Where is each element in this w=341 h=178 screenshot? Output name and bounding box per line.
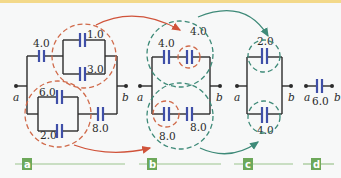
capacitor-reduction-diagram: a b 4.0 1.0 3.0 6.0 — [0, 0, 341, 178]
panel-b-terminal-b: b — [216, 91, 223, 103]
green-group-circle-bottom — [147, 83, 213, 149]
step-c-label: c — [245, 159, 251, 170]
green-arrow-top — [198, 11, 268, 36]
step-a-label: a — [24, 159, 31, 170]
terminal-b-dot — [124, 84, 128, 88]
panel-d-cap-equivalent: 6.0 — [312, 95, 329, 107]
panel-c-cap-bottom: 4.0 — [257, 124, 274, 136]
cap-label-1-0: 1.0 — [87, 28, 104, 40]
panel-c-terminal-a: a — [234, 91, 240, 103]
cap-label-2-0: 2.0 — [40, 129, 57, 141]
panel-c-circuit: a b 2.0 4.0 — [234, 35, 295, 136]
cap-label-8-0: 8.0 — [92, 122, 109, 134]
panel-c-terminal-b: b — [288, 91, 295, 103]
panel-b-cap-bot-left: 8.0 — [159, 130, 176, 142]
panel-b-cap-top-left: 4.0 — [158, 37, 175, 49]
panel-a-circuit: a b 4.0 1.0 3.0 6.0 — [13, 24, 129, 147]
panel-b-cap-bot-right: 8.0 — [190, 121, 207, 133]
cap-label-3-0: 3.0 — [87, 63, 104, 75]
red-arrow-bottom — [74, 145, 150, 152]
cap-label-6-0: 6.0 — [39, 86, 56, 98]
step-labels: a b c d — [15, 158, 334, 170]
panel-d-circuit: a b 6.0 — [304, 79, 341, 107]
panel-a-terminal-b: b — [122, 91, 129, 103]
step-d-label: d — [313, 159, 320, 170]
green-arrow-bottom — [200, 142, 258, 154]
panel-b-terminal-a: a — [137, 91, 143, 103]
panel-b-cap-top-right: 4.0 — [190, 25, 207, 37]
red-arrow-top — [96, 16, 180, 30]
panel-a-terminal-a: a — [13, 91, 19, 103]
terminal-a-dot — [14, 84, 18, 88]
step-b-label: b — [149, 159, 156, 170]
panel-d-terminal-a: a — [304, 91, 310, 103]
cap-label-4-0: 4.0 — [33, 37, 50, 49]
panel-b-circuit: a b 4.0 4.0 8.0 8.0 — [137, 21, 223, 149]
panel-d-terminal-b: b — [334, 91, 341, 103]
